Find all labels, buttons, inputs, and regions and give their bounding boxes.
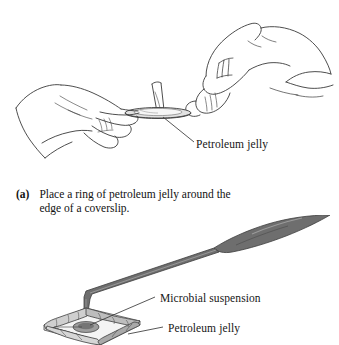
caption-a-text: Place a ring of petroleum jelly around t…	[39, 188, 254, 215]
label-petroleum-jelly-a: Petroleum jelly	[196, 138, 268, 151]
figure-container: Petroleum jelly (a) Place a ring of petr…	[0, 0, 339, 345]
label-microbial-suspension: Microbial suspension	[160, 292, 261, 305]
caption-a: (a) Place a ring of petroleum jelly arou…	[16, 188, 316, 215]
panel-a-illustration	[0, 0, 339, 190]
panel-a-drawing	[0, 0, 339, 190]
caption-a-marker: (a)	[16, 188, 29, 200]
right-hand-icon	[186, 23, 333, 116]
coverslip-perspective-icon	[44, 308, 140, 345]
label-petroleum-jelly-b: Petroleum jelly	[168, 322, 240, 335]
left-hand-icon	[16, 85, 139, 158]
leader-line-petroleum-jelly-a	[163, 117, 194, 142]
coverslip-with-jelly-ring	[125, 108, 191, 119]
pipette-bulb-icon	[214, 215, 330, 253]
